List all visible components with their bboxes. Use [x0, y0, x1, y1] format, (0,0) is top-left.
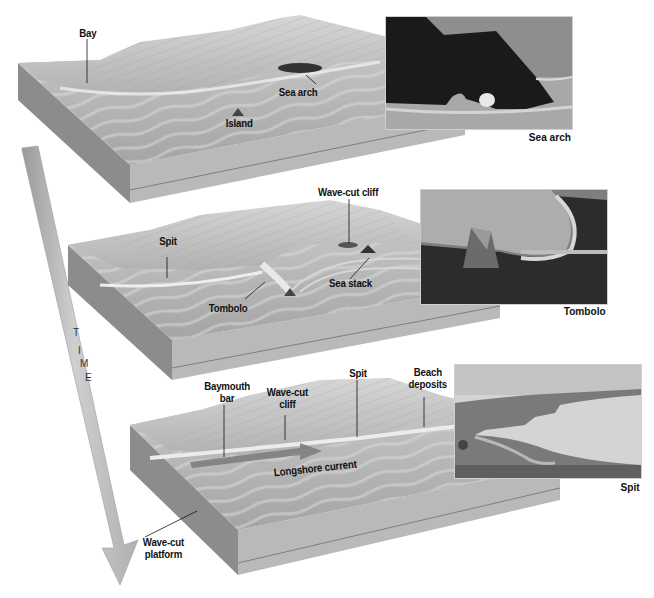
label-wave-cut-cliff: Wave-cut cliff [318, 186, 378, 198]
label-wave-cut-platform-line1: Wave-cut [143, 536, 184, 548]
label-spit: Spit [159, 235, 177, 247]
diagram-canvas: Sea arch Tombolo Spit Bay Sea arch Islan… [0, 0, 654, 598]
time-arrow [15, 135, 138, 585]
label-wave-cut-platform: Wave-cut platform [143, 536, 184, 560]
spit-photo [454, 364, 642, 479]
spit-caption: Spit [621, 481, 640, 493]
label-spit-3: Spit [349, 367, 367, 379]
label-wave-cut-cliff-3: Wave-cut cliff [267, 386, 308, 410]
label-beach-deposits-line1: Beach [409, 366, 447, 378]
label-baymouth-bar: Baymouth bar [204, 380, 250, 404]
time-letter-t: T [73, 327, 79, 338]
tombolo-photo [420, 189, 608, 305]
time-letter-i: I [78, 345, 81, 356]
tombolo-caption: Tombolo [564, 305, 606, 317]
label-wave-cut-platform-line2: platform [143, 548, 184, 560]
label-sea-stack: Sea stack [329, 277, 372, 289]
label-island: Island [226, 117, 253, 129]
label-wave-cut-cliff-3-line1: Wave-cut [267, 386, 308, 398]
label-sea-arch: Sea arch [279, 86, 318, 98]
label-baymouth-bar-line2: bar [204, 392, 250, 404]
time-letter-m: M [80, 358, 88, 369]
label-tombolo: Tombolo [209, 302, 248, 314]
time-letter-e: E [85, 372, 92, 383]
label-beach-deposits: Beach deposits [409, 366, 447, 390]
label-wave-cut-cliff-3-line2: cliff [267, 398, 308, 410]
sea-arch-photo [385, 16, 573, 130]
label-bay: Bay [79, 27, 96, 39]
label-baymouth-bar-line1: Baymouth [204, 380, 250, 392]
sea-arch-caption: Sea arch [529, 131, 571, 143]
label-beach-deposits-line2: deposits [409, 378, 447, 390]
